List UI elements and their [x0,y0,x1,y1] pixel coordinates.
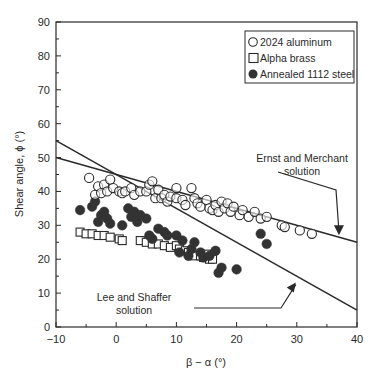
steel-point [232,265,242,275]
open-square-icon [249,54,258,63]
aluminum-point [307,229,316,238]
legend-item-steel: Annealed 1112 steel [260,68,354,80]
steel-point [117,221,127,231]
x-axis-label: β − α (°) [186,356,226,368]
steel-point [190,237,200,247]
aluminum-point [181,200,190,209]
steel-point [142,214,152,224]
legend: 2024 aluminumAlpha brassAnnealed 1112 st… [245,31,354,83]
shear-angle-chart: −10010203040 0102030405060708090 Ernst a… [0,0,377,379]
y-axis: 0102030405060708090 [38,16,61,333]
aluminum-point [172,183,181,192]
y-tick-label: 60 [38,118,50,130]
lee-shaffer-arrow [194,285,296,308]
y-tick-label: 10 [38,287,50,299]
steel-point [217,263,227,273]
steel-point [178,236,188,246]
steel-point [93,217,103,227]
ernst-merchant-arrowhead [334,225,344,235]
y-tick-label: 70 [38,84,50,96]
aluminum-point [148,177,157,186]
x-tick-label: 20 [230,333,242,345]
x-tick-label: 40 [351,333,363,345]
aluminum-point [229,202,238,211]
x-axis: −10010203040 [47,322,363,345]
y-tick-label: 50 [38,152,50,164]
y-tick-label: 40 [38,185,50,197]
filled-circle-icon [249,70,258,79]
y-tick-label: 30 [38,219,50,231]
x-tick-label: 10 [170,333,182,345]
aluminum-point [85,173,94,182]
brass-point [118,237,126,245]
y-axis-label: Shear angle, ϕ (°) [13,131,25,217]
lee-shaffer-label: Lee and Shaffer [97,291,172,303]
data-points [75,173,316,277]
x-tick-label: 30 [291,333,303,345]
ernst-merchant-label: Ernst and Merchant [256,152,348,164]
legend-item-brass: Alpha brass [260,52,315,64]
aluminum-point [202,195,211,204]
aluminum-point [295,226,304,235]
steel-point [75,205,85,215]
lee-shaffer-label-2: solution [116,304,152,316]
steel-point [105,219,115,229]
steel-point [256,229,266,239]
aluminum-point [280,222,289,231]
y-tick-label: 90 [38,16,50,28]
aluminum-point [106,175,115,184]
brass-point [106,233,114,241]
legend-item-aluminum: 2024 aluminum [260,36,332,48]
steel-point [262,239,272,249]
aluminum-point [187,183,196,192]
x-tick-label: −10 [47,333,66,345]
steel-point [175,248,185,258]
x-tick-label: 0 [113,333,119,345]
aluminum-point [262,212,271,221]
steel-point [148,234,158,244]
y-tick-label: 0 [44,321,50,333]
open-circle-icon [249,38,258,47]
y-tick-label: 20 [38,253,50,265]
steel-point [163,231,173,241]
steel-point [211,246,221,256]
y-tick-label: 80 [38,50,50,62]
